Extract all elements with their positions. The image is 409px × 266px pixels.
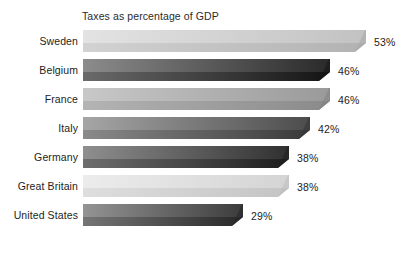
bar-great-britain <box>83 175 293 198</box>
category-label: Sweden <box>0 35 78 47</box>
bar-germany <box>83 146 293 169</box>
bar-row: Belgium46% <box>0 57 409 86</box>
value-label: 38% <box>297 152 318 164</box>
category-label: Great Britain <box>0 180 78 192</box>
value-label: 46% <box>338 65 359 77</box>
value-label: 46% <box>338 94 359 106</box>
value-label: 53% <box>374 36 395 48</box>
category-label: United States <box>0 209 78 221</box>
bar-row: Sweden53% <box>0 28 409 57</box>
bar-france <box>83 88 334 111</box>
bar-united-states <box>83 204 247 227</box>
bar-row: Germany38% <box>0 144 409 173</box>
bar-row: Italy42% <box>0 115 409 144</box>
bar-italy <box>83 117 314 140</box>
category-label: France <box>0 93 78 105</box>
plot-area: Sweden53%Belgium46%France46%Italy42%Germ… <box>0 28 409 260</box>
value-label: 29% <box>251 210 272 222</box>
value-label: 38% <box>297 181 318 193</box>
category-label: Germany <box>0 151 78 163</box>
bar-row: France46% <box>0 86 409 115</box>
category-label: Belgium <box>0 64 78 76</box>
taxes-gdp-bar-chart: Taxes as percentage of GDP Sweden53%Belg… <box>0 0 409 266</box>
bar-row: Great Britain38% <box>0 173 409 202</box>
value-label: 42% <box>318 123 339 135</box>
bar-sweden <box>83 30 370 53</box>
bar-belgium <box>83 59 334 82</box>
chart-title: Taxes as percentage of GDP <box>82 10 219 22</box>
bar-row: United States29% <box>0 202 409 231</box>
category-label: Italy <box>0 122 78 134</box>
